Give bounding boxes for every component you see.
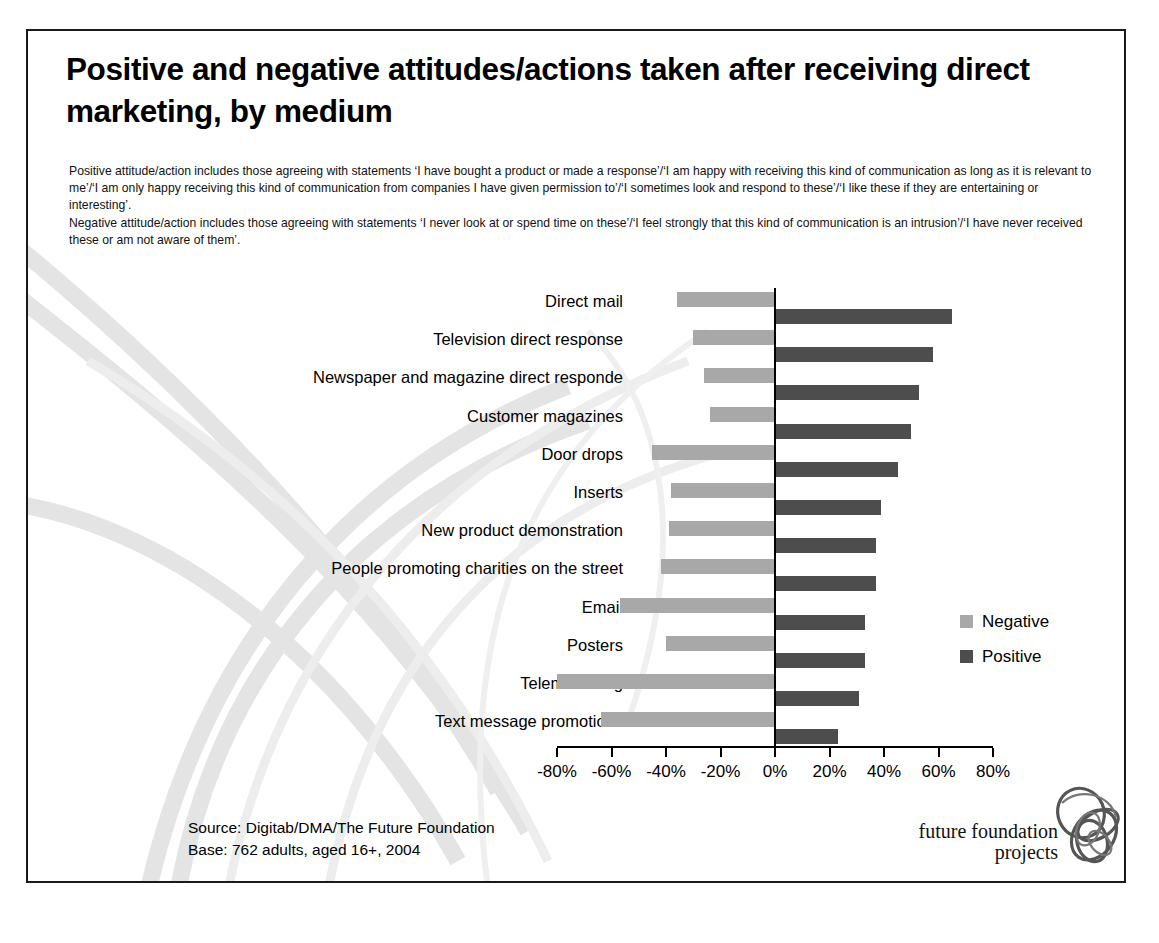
source-line: Source: Digitab/DMA/The Future Foundatio… <box>188 817 495 839</box>
slide-frame: Positive and negative attitudes/actions … <box>26 29 1126 883</box>
future-foundation-logo: future foundation projects <box>908 783 1123 883</box>
bar-negative <box>710 407 775 422</box>
bar-negative <box>661 559 775 574</box>
slide-header: Positive and negative attitudes/actions … <box>66 49 1076 133</box>
category-label: Direct mail <box>545 293 623 310</box>
bar-negative <box>601 712 775 727</box>
legend-swatch-icon <box>960 615 973 628</box>
x-tick-mark <box>883 748 885 757</box>
bar-negative <box>557 674 775 689</box>
logo-swirl-icon <box>1048 783 1124 875</box>
footer-notes: Source: Digitab/DMA/The Future Foundatio… <box>188 817 495 861</box>
diverging-bar-chart: Direct mailTelevision direct responseNew… <box>28 31 1124 881</box>
x-tick-mark <box>992 748 994 757</box>
bar-positive <box>775 615 865 630</box>
bar-positive <box>775 729 838 744</box>
bar-positive <box>775 309 952 324</box>
slide-page: Positive and negative attitudes/actions … <box>0 0 1159 943</box>
x-tick-mark <box>938 748 940 757</box>
bar-negative <box>669 521 775 536</box>
x-tick-mark <box>665 748 667 757</box>
x-tick-mark <box>774 748 776 757</box>
category-label: Customer magazines <box>467 408 623 425</box>
bar-negative <box>671 483 775 498</box>
x-tick-mark <box>720 748 722 757</box>
category-label: Email <box>582 599 623 616</box>
category-label: Door drops <box>541 446 623 463</box>
legend-label: Positive <box>982 648 1042 665</box>
legend-label: Negative <box>982 613 1049 630</box>
bar-negative <box>652 445 775 460</box>
category-label: New product demonstration <box>421 522 623 539</box>
bar-negative <box>677 292 775 307</box>
bar-negative <box>693 330 775 345</box>
x-tick-label: 80% <box>959 763 1027 780</box>
category-label: Newspaper and magazine direct responde <box>313 369 623 386</box>
bar-positive <box>775 385 919 400</box>
bar-positive <box>775 691 859 706</box>
legend-item-negative: Negative <box>960 613 1049 630</box>
bar-positive <box>775 462 898 477</box>
bar-positive <box>775 576 876 591</box>
category-label: Inserts <box>573 484 623 501</box>
category-label: Posters <box>567 637 623 654</box>
category-label: Text message promotions <box>435 713 623 730</box>
bar-negative <box>620 598 775 613</box>
x-tick-mark <box>829 748 831 757</box>
logo-line-2: projects <box>908 842 1058 863</box>
bar-negative <box>666 636 775 651</box>
definition-notes: Positive attitude/action includes those … <box>69 163 1104 251</box>
x-tick-mark <box>556 748 558 757</box>
legend-item-positive: Positive <box>960 648 1049 665</box>
note-positive-definition: Positive attitude/action includes those … <box>69 163 1104 213</box>
note-negative-definition: Negative attitude/action includes those … <box>69 215 1104 249</box>
chart-legend: NegativePositive <box>960 613 1049 683</box>
bar-positive <box>775 653 865 668</box>
bar-positive <box>775 500 881 515</box>
bar-positive <box>775 538 876 553</box>
legend-swatch-icon <box>960 650 973 663</box>
bar-negative <box>704 368 775 383</box>
logo-line-1: future foundation <box>908 821 1058 842</box>
bar-positive <box>775 424 911 439</box>
zero-axis-line <box>774 288 776 746</box>
base-line: Base: 762 adults, aged 16+, 2004 <box>188 839 495 861</box>
x-tick-mark <box>611 748 613 757</box>
bar-positive <box>775 347 933 362</box>
page-title: Positive and negative attitudes/actions … <box>66 49 1076 133</box>
category-label: Television direct response <box>433 331 623 348</box>
logo-wordmark: future foundation projects <box>908 821 1058 863</box>
category-label: People promoting charities on the street <box>331 560 623 577</box>
